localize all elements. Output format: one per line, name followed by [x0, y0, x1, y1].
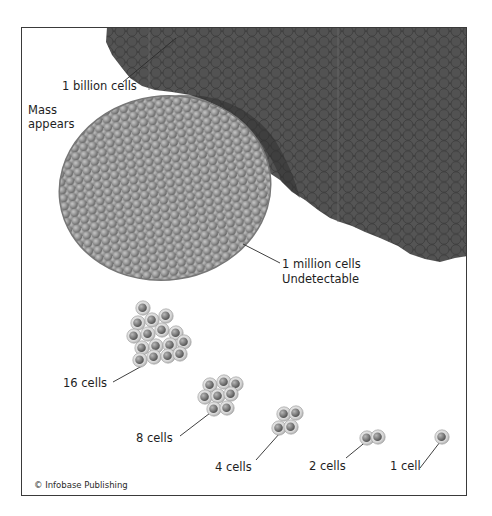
label-two-cells: 2 cells [309, 459, 346, 473]
million-leader-line [243, 244, 280, 263]
sixteen-leader-line [113, 366, 142, 382]
label-sixteen-cells: 16 cells [63, 376, 107, 390]
label-million-cells: 1 million cells [282, 257, 361, 271]
label-mass-line2: appears [28, 117, 75, 131]
one-leader-line [420, 442, 440, 468]
four-cell-cluster [272, 406, 303, 435]
label-billion-cells: 1 billion cells [62, 79, 137, 93]
label-eight-cells: 8 cells [136, 431, 173, 445]
single-cell [435, 430, 449, 444]
copyright-credit: © Infobase Publishing [34, 480, 128, 490]
label-one-cell: 1 cell [390, 459, 421, 473]
label-undetectable: Undetectable [282, 272, 359, 286]
eight-cell-cluster [198, 375, 243, 416]
tumor-growth-illustration [0, 0, 492, 516]
label-four-cells: 4 cells [215, 460, 252, 474]
four-leader-line [256, 433, 280, 460]
two-cell-cluster [360, 430, 385, 445]
label-mass-line1: Mass [28, 103, 57, 117]
sixteen-cell-cluster [127, 301, 191, 367]
